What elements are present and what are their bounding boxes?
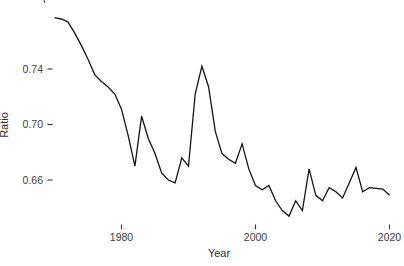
y-axis-title: Ratio [0,112,10,138]
y-tick-label: 0.66 [23,174,44,186]
chart-page: 0.740.700.66 198020002020 Ratio Year [0,0,404,266]
cropped-tick-artifact [44,0,45,3]
y-tick-label: 0.70 [23,118,44,130]
x-tick-label: 1980 [110,231,134,243]
line-chart: 0.740.700.66 198020002020 Ratio Year [0,0,404,266]
x-tick-label: 2000 [244,231,268,243]
ratio-line-series [55,18,390,216]
y-tick-label: 0.74 [23,63,44,75]
y-axis-ticks: 0.740.700.66 [23,63,53,186]
x-axis-ticks: 198020002020 [110,225,402,244]
x-tick-label: 2020 [378,231,402,243]
x-axis-title: Year [208,247,231,259]
